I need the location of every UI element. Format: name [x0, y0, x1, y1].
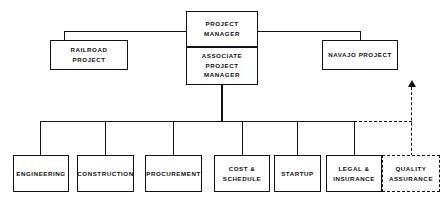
node-legal-insurance-label: LEGAL & INSURANCE: [331, 164, 377, 183]
connector-pm-to-navajo-horizontal: [257, 31, 361, 32]
node-engineering[interactable]: ENGINEERING: [13, 155, 69, 192]
connector-quality-assurance-bus-dashed: [354, 121, 412, 122]
node-railroad-project[interactable]: RAILROAD PROJECT: [50, 40, 128, 70]
node-procurement[interactable]: PROCUREMENT: [145, 155, 202, 192]
node-cost-schedule-label: COST & SCHEDULE: [221, 164, 263, 183]
node-construction[interactable]: CONSTRUCTION: [77, 155, 134, 192]
node-quality-assurance[interactable]: QUALITY ASSURANCE: [382, 155, 440, 192]
node-construction-label: CONSTRUCTION: [75, 169, 135, 179]
arrowhead-up-icon: [408, 80, 416, 87]
org-chart: PROJECT MANAGER ASSOCIATE PROJECT MANAGE…: [0, 0, 447, 208]
node-startup[interactable]: STARTUP: [274, 155, 321, 192]
connector-bus-to-construction: [105, 121, 106, 156]
connector-associate-pm-drop: [221, 84, 222, 122]
node-navajo-project-label: NAVAJO PROJECT: [326, 50, 394, 60]
node-associate-project-manager-label: ASSOCIATE PROJECT MANAGER: [187, 51, 257, 80]
connector-bus-to-cost-schedule: [242, 121, 243, 156]
connector-bus-to-procurement: [173, 121, 174, 156]
connector-bus-to-legal-insurance: [354, 121, 355, 156]
node-engineering-label: ENGINEERING: [14, 169, 67, 179]
connector-pm-to-railroad-horizontal: [64, 31, 187, 32]
node-cost-schedule[interactable]: COST & SCHEDULE: [214, 155, 270, 192]
connector-bus-to-engineering: [40, 121, 41, 156]
connector-bus-to-startup: [297, 121, 298, 156]
node-railroad-project-label: RAILROAD PROJECT: [51, 45, 127, 64]
node-quality-assurance-label: QUALITY ASSURANCE: [387, 164, 435, 183]
node-navajo-project[interactable]: NAVAJO PROJECT: [322, 40, 398, 70]
node-associate-project-manager[interactable]: ASSOCIATE PROJECT MANAGER: [186, 47, 258, 85]
node-project-manager-label: PROJECT MANAGER: [187, 19, 257, 38]
node-legal-insurance[interactable]: LEGAL & INSURANCE: [326, 155, 382, 192]
node-startup-label: STARTUP: [279, 169, 316, 179]
node-project-manager[interactable]: PROJECT MANAGER: [186, 11, 258, 47]
node-procurement-label: PROCUREMENT: [144, 169, 203, 179]
connector-quality-assurance-riser-dashed: [411, 87, 412, 156]
connector-department-bus: [40, 121, 355, 122]
